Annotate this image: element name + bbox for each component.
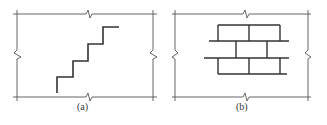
caption-a: (a) — [77, 101, 88, 112]
panel-a-frame — [13, 10, 157, 101]
stepped-crack-line — [57, 27, 119, 93]
panel-b-frame — [172, 10, 311, 101]
brick-pattern — [204, 25, 289, 74]
caption-b: (b) — [236, 101, 248, 112]
figure-canvas — [0, 0, 327, 125]
